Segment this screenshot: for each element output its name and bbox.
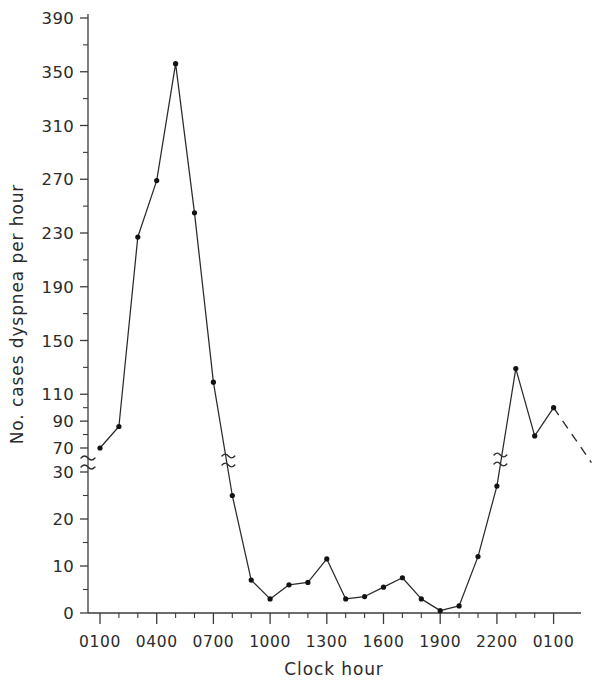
series-data-points xyxy=(97,61,556,613)
series-dashed-tail xyxy=(554,408,592,463)
y-tick-label-350: 350 xyxy=(42,63,74,82)
data-point xyxy=(324,556,329,561)
y-ticks-upper xyxy=(80,18,88,448)
y-tick-label-150: 150 xyxy=(42,332,74,351)
y-tick-labels-upper: 3903503102702301901501109070 xyxy=(42,9,74,458)
x-tick-label-1000: 1000 xyxy=(249,633,291,651)
x-tick-label-1300: 1300 xyxy=(306,633,348,651)
y-tick-label-310: 310 xyxy=(42,117,74,136)
data-point xyxy=(249,578,254,583)
data-point xyxy=(116,424,121,429)
data-point xyxy=(438,608,443,613)
x-axis-title: Clock hour xyxy=(284,659,384,679)
y-tick-label-230: 230 xyxy=(42,224,74,243)
data-point xyxy=(381,585,386,590)
data-point xyxy=(513,366,518,371)
data-point xyxy=(343,596,348,601)
data-point xyxy=(192,210,197,215)
series-break-tilde-right-upper xyxy=(494,453,507,457)
y-tick-label-190: 190 xyxy=(42,278,74,297)
data-point xyxy=(305,580,310,585)
chart-root: 3903503102702301901501109070 3020100 010… xyxy=(0,0,595,684)
y-tick-labels-lower: 3020100 xyxy=(52,463,74,623)
y-tick-label-70: 70 xyxy=(52,439,74,458)
data-point xyxy=(268,596,273,601)
x-ticks xyxy=(100,613,554,624)
data-point xyxy=(475,554,480,559)
y-ticks-minor xyxy=(83,45,88,590)
dyspnea-by-clock-hour-line-chart: 3903503102702301901501109070 3020100 010… xyxy=(0,0,595,684)
y-tick-label-390: 390 xyxy=(42,9,74,28)
x-tick-label-1900: 1900 xyxy=(419,633,461,651)
x-tick-label-0100: 0100 xyxy=(533,633,575,651)
y-tick-label-10: 10 xyxy=(52,557,74,576)
x-tick-labels: 010004000700100013001600190022000100 xyxy=(79,633,574,651)
data-point xyxy=(532,433,537,438)
y-tick-label-20: 20 xyxy=(52,510,74,529)
series-dyspnea xyxy=(97,61,591,613)
data-point xyxy=(457,603,462,608)
x-tick-label-0400: 0400 xyxy=(136,633,178,651)
data-point xyxy=(230,493,235,498)
data-point xyxy=(97,445,102,450)
x-tick-label-0700: 0700 xyxy=(192,633,234,651)
data-point xyxy=(400,575,405,580)
y-tick-label-110: 110 xyxy=(42,385,74,404)
series-break-tilde-left-upper xyxy=(222,454,235,458)
y-tick-label-90: 90 xyxy=(52,412,74,431)
data-point xyxy=(211,380,216,385)
y-tick-label-270: 270 xyxy=(42,170,74,189)
data-point xyxy=(362,594,367,599)
x-tick-label-2200: 2200 xyxy=(476,633,518,651)
data-point xyxy=(154,178,159,183)
y-axis-title: No. cases dyspnea per hour xyxy=(7,184,27,445)
y-tick-label-30: 30 xyxy=(52,463,74,482)
x-tick-label-1600: 1600 xyxy=(363,633,405,651)
data-point xyxy=(286,582,291,587)
series-break-tilde-left-lower xyxy=(222,463,235,467)
x-tick-label-0100: 0100 xyxy=(79,633,121,651)
data-point xyxy=(494,484,499,489)
series-break-marker xyxy=(222,453,507,467)
data-point xyxy=(135,234,140,239)
data-point xyxy=(173,61,178,66)
series-polyline xyxy=(100,64,554,611)
data-point xyxy=(551,405,556,410)
data-point xyxy=(419,596,424,601)
y-tick-label-0: 0 xyxy=(63,604,74,623)
